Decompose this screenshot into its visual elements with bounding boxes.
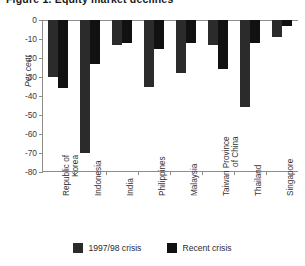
- bar: [90, 20, 100, 64]
- category-label-line: Singapore: [286, 159, 295, 196]
- y-tick-mark: [39, 134, 43, 135]
- bar: [250, 20, 260, 43]
- bar: [176, 20, 186, 73]
- bar: [186, 20, 196, 43]
- bar: [154, 20, 164, 49]
- y-tick-label: -80: [25, 167, 37, 177]
- y-tick-label: -20: [25, 53, 37, 63]
- category-label-line: Thailand: [254, 165, 263, 196]
- bar: [112, 20, 122, 45]
- y-tick-label: -10: [25, 34, 37, 44]
- category-label-line: Malaysia: [190, 164, 199, 196]
- bar: [240, 20, 250, 107]
- y-tick-mark: [39, 96, 43, 97]
- y-tick-label: -40: [25, 91, 37, 101]
- category-label: Philippines: [158, 156, 167, 196]
- x-tick-mark: [106, 171, 107, 175]
- y-tick-label: 0: [32, 15, 37, 25]
- category-label-line: Philippines: [158, 156, 167, 196]
- y-tick-label: -50: [25, 110, 37, 120]
- chart-title: Figure 1. Equity market declines: [6, 0, 173, 5]
- y-tick-label: -30: [25, 72, 37, 82]
- y-tick-mark: [39, 115, 43, 116]
- category-label: India: [126, 178, 135, 196]
- bar: [282, 20, 292, 26]
- bar: [122, 20, 132, 43]
- y-tick-mark: [39, 153, 43, 154]
- category-label-line: India: [126, 178, 135, 196]
- category-label: Malaysia: [190, 164, 199, 196]
- legend-swatch: [167, 243, 177, 253]
- bar: [48, 20, 58, 77]
- bar: [58, 20, 68, 88]
- category-label: Thailand: [254, 165, 263, 196]
- bar: [208, 20, 218, 45]
- x-tick-mark: [170, 171, 171, 175]
- legend-swatch: [73, 243, 83, 253]
- legend-item[interactable]: 1997/98 crisis: [73, 243, 141, 253]
- legend-item[interactable]: Recent crisis: [167, 243, 231, 253]
- plot-area: Per cent 0-10-20-30-40-50-60-70-80 Repub…: [42, 20, 298, 172]
- y-tick-label: -60: [25, 129, 37, 139]
- category-label: Singapore: [286, 159, 295, 196]
- legend-label: Recent crisis: [182, 243, 231, 253]
- category-label: Indonesia: [94, 160, 103, 196]
- x-tick-mark: [202, 171, 203, 175]
- equity-decline-bar-chart: Figure 1. Equity market declines Per cen…: [0, 0, 305, 266]
- x-tick-mark: [266, 171, 267, 175]
- y-tick-mark: [39, 39, 43, 40]
- y-tick-label: -70: [25, 148, 37, 158]
- x-tick-mark: [138, 171, 139, 175]
- category-label: Republic ofKorea: [62, 155, 80, 196]
- category-label-line: Republic of: [62, 155, 71, 196]
- bar: [272, 20, 282, 37]
- bar: [218, 20, 228, 69]
- category-label-line: Indonesia: [94, 160, 103, 196]
- category-label: Taiwan Provinceof China: [222, 136, 240, 196]
- bar: [80, 20, 90, 153]
- y-tick-mark: [39, 172, 43, 173]
- legend-label: 1997/98 crisis: [88, 243, 141, 253]
- y-tick-mark: [39, 58, 43, 59]
- y-tick-mark: [39, 77, 43, 78]
- category-label-line: Taiwan Province: [222, 136, 231, 196]
- category-label-line: Korea: [71, 155, 80, 196]
- y-tick-mark: [39, 20, 43, 21]
- category-label-line: of China: [231, 136, 240, 196]
- bar: [144, 20, 154, 87]
- chart-legend: 1997/98 crisisRecent crisis: [0, 243, 305, 253]
